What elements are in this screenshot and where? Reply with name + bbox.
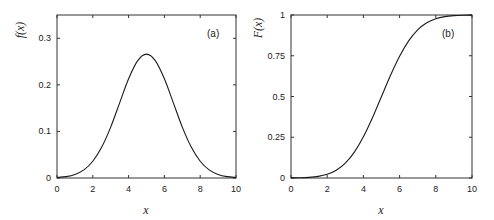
panel-b-label: (b): [442, 28, 454, 39]
x-tick-label: 8: [198, 184, 203, 194]
y-tick-label: 0.3: [38, 33, 51, 43]
y-tick-label: 1: [280, 10, 285, 20]
y-tick-label: 0.5: [272, 92, 285, 102]
panel-a: 024681000.10.20.3 (a) x f(x): [13, 15, 241, 217]
panel-a-label: (a): [207, 28, 219, 39]
x-tick-label: 10: [467, 184, 477, 194]
x-tick-label: 0: [288, 184, 293, 194]
x-tick-label: 6: [397, 184, 402, 194]
y-tick-label: 0.2: [38, 80, 51, 90]
panel-b: 024681000.250.50.751 (b) x F(x): [251, 10, 477, 217]
panel-a-curve: [57, 54, 236, 177]
x-tick-label: 0: [54, 184, 59, 194]
y-tick-label: 0: [46, 173, 51, 183]
panel-a-ticks: 024681000.10.20.3: [38, 15, 241, 194]
panel-a-xlabel: x: [142, 203, 149, 217]
x-tick-label: 2: [90, 184, 95, 194]
x-tick-label: 4: [126, 184, 131, 194]
y-tick-label: 0.75: [267, 51, 285, 61]
x-tick-label: 8: [433, 184, 438, 194]
figure: 024681000.10.20.3 (a) x f(x) 024681000.2…: [0, 0, 494, 220]
x-tick-label: 4: [361, 184, 366, 194]
y-tick-label: 0.25: [267, 132, 285, 142]
panel-b-ylabel: F(x): [251, 18, 265, 40]
panel-b-xlabel: x: [377, 203, 384, 217]
x-tick-label: 2: [325, 184, 330, 194]
y-tick-label: 0: [280, 173, 285, 183]
x-tick-label: 6: [162, 184, 167, 194]
panel-a-frame: [57, 15, 236, 178]
panel-a-ylabel: f(x): [13, 22, 27, 39]
panel-b-curve: [291, 15, 472, 178]
y-tick-label: 0.1: [38, 126, 51, 136]
x-tick-label: 10: [231, 184, 241, 194]
